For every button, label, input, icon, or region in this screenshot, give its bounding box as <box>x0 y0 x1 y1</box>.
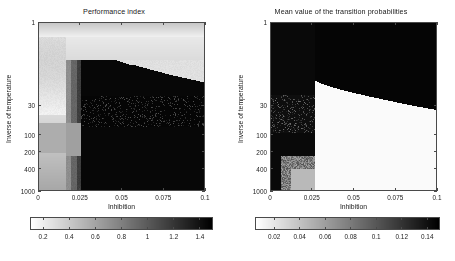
colorbar-tick-mark <box>350 227 351 230</box>
colorbar-tick-label: 0.04 <box>293 233 305 240</box>
y-tick-mark <box>434 105 437 106</box>
colorbar-tick-label: 0.1 <box>372 233 381 240</box>
colorbar-tick-mark <box>43 227 44 230</box>
y-tick-mark <box>270 168 273 169</box>
y-axis-label-left: Inverse of temperature <box>5 74 12 142</box>
y-tick-mark <box>202 168 205 169</box>
y-tick-mark <box>270 105 273 106</box>
colorbar-tick-label: 0.8 <box>117 233 126 240</box>
y-tick-label: 200 <box>240 148 267 155</box>
x-tick-mark <box>163 22 164 25</box>
y-tick-mark <box>202 22 205 23</box>
y-tick-mark <box>434 22 437 23</box>
colorbar-left: 0.20.40.60.811.21.4 <box>0 215 228 261</box>
colorbar-tick-mark <box>274 227 275 230</box>
x-tick-label: 0.05 <box>347 194 359 201</box>
x-tick-label: 0.05 <box>115 194 127 201</box>
colorbar-right: 0.020.040.060.080.10.120.14 <box>227 215 455 261</box>
y-tick-label: 30 <box>8 102 35 109</box>
x-tick-mark <box>121 22 122 25</box>
colorbar-tick-label: 1.2 <box>169 233 178 240</box>
colorbar-tick-mark <box>325 217 326 220</box>
x-tick-mark <box>79 22 80 25</box>
x-tick-mark <box>395 188 396 191</box>
x-tick-mark <box>353 188 354 191</box>
colorbar-tick-mark <box>69 227 70 230</box>
x-tick-label: 0.1 <box>201 194 210 201</box>
heatmap-axes-left <box>38 22 205 191</box>
heatmap-image-right <box>271 23 436 190</box>
x-axis-label-right: Inhibition <box>270 203 437 210</box>
colorbar-tick-label: 0.4 <box>65 233 74 240</box>
x-tick-mark <box>163 188 164 191</box>
colorbar-tick-label: 0.06 <box>319 233 331 240</box>
colorbar-tick-mark <box>199 227 200 230</box>
y-tick-mark <box>202 191 205 192</box>
colorbar-tick-mark <box>121 217 122 220</box>
x-tick-label: 0.025 <box>72 194 88 201</box>
heatmap-axes-right <box>270 22 437 191</box>
x-tick-mark <box>121 188 122 191</box>
y-tick-mark <box>202 151 205 152</box>
colorbar-tick-label: 1.4 <box>195 233 204 240</box>
y-tick-mark <box>434 151 437 152</box>
colorbar-tick-mark <box>401 227 402 230</box>
y-tick-mark <box>202 134 205 135</box>
y-tick-mark <box>270 191 273 192</box>
colorbar-tick-mark <box>95 227 96 230</box>
colorbar-tick-label: 0.12 <box>395 233 407 240</box>
colorbar-tick-mark <box>69 217 70 220</box>
x-tick-mark <box>311 22 312 25</box>
y-axis-label-right: Inverse of temperature <box>237 74 244 142</box>
colorbar-tick-mark <box>427 217 428 220</box>
y-tick-mark <box>270 151 273 152</box>
y-tick-mark <box>434 191 437 192</box>
panel-transition-probabilities: Mean value of the transition probabiliti… <box>227 0 455 215</box>
y-tick-mark <box>434 168 437 169</box>
x-tick-mark <box>311 188 312 191</box>
colorbar-gradient-right <box>255 217 440 230</box>
panel-title-left: Performance index <box>0 7 228 16</box>
y-tick-label: 400 <box>8 165 35 172</box>
colorbar-tick-label: 0.02 <box>268 233 280 240</box>
colorbar-tick-mark <box>43 217 44 220</box>
colorbar-tick-mark <box>147 227 148 230</box>
colorbar-tick-mark <box>173 227 174 230</box>
y-tick-mark <box>38 191 41 192</box>
y-tick-label: 100 <box>8 131 35 138</box>
panel-performance-index: Performance index 00.0250.050.0750.1 130… <box>0 0 228 215</box>
colorbar-tick-mark <box>350 217 351 220</box>
x-tick-label: 0.075 <box>387 194 403 201</box>
y-tick-label: 1000 <box>8 188 35 195</box>
y-tick-mark <box>38 151 41 152</box>
colorbar-tick-mark <box>199 217 200 220</box>
colorbar-tick-mark <box>376 217 377 220</box>
colorbar-tick-mark <box>376 227 377 230</box>
x-tick-label: 0.025 <box>304 194 320 201</box>
y-tick-mark <box>38 105 41 106</box>
colorbar-tick-mark <box>427 227 428 230</box>
y-tick-mark <box>434 134 437 135</box>
colorbar-tick-label: 0.2 <box>39 233 48 240</box>
heatmap-image-left <box>39 23 204 190</box>
y-tick-mark <box>202 105 205 106</box>
colorbar-tick-mark <box>274 217 275 220</box>
x-axis-label-left: Inhibition <box>38 203 205 210</box>
x-tick-label: 0 <box>268 194 272 201</box>
y-tick-label: 200 <box>8 148 35 155</box>
colorbar-tick-mark <box>299 227 300 230</box>
y-tick-mark <box>38 134 41 135</box>
figure-canvas: Performance index 00.0250.050.0750.1 130… <box>0 0 455 261</box>
x-tick-label: 0 <box>36 194 40 201</box>
colorbar-tick-label: 0.08 <box>344 233 356 240</box>
y-tick-mark <box>270 22 273 23</box>
y-tick-label: 400 <box>240 165 267 172</box>
x-tick-label: 0.075 <box>155 194 171 201</box>
colorbar-tick-mark <box>121 227 122 230</box>
colorbar-tick-mark <box>401 217 402 220</box>
colorbar-tick-mark <box>95 217 96 220</box>
y-tick-mark <box>270 134 273 135</box>
y-tick-label: 30 <box>240 102 267 109</box>
colorbar-tick-mark <box>147 217 148 220</box>
y-tick-label: 1 <box>240 19 267 26</box>
